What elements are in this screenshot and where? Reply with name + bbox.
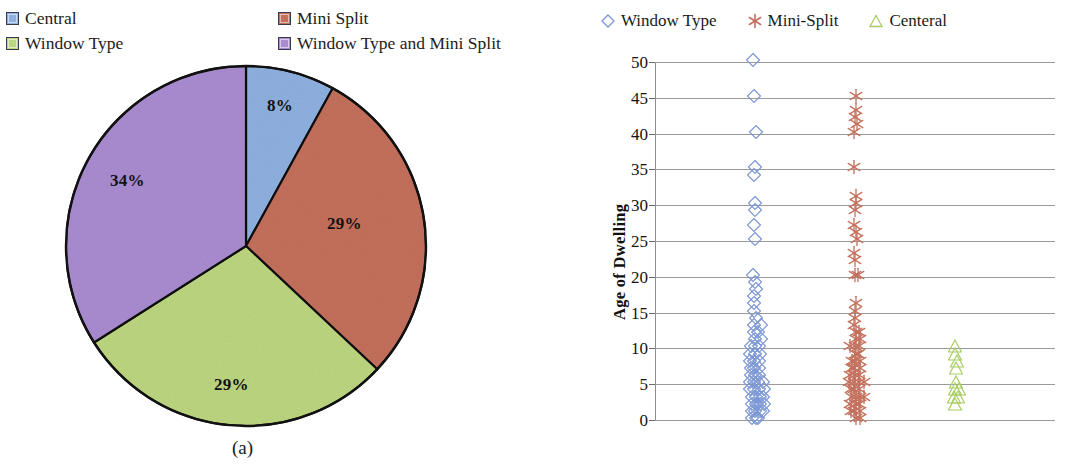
subcaption-a: (a) (232, 437, 253, 459)
gridline (655, 134, 1055, 135)
y-tick-label: 45 (631, 89, 648, 106)
scatter-point (743, 360, 758, 379)
figure-root: Central Mini Split Window Type Window Ty… (0, 0, 1089, 470)
scatter-point (750, 325, 765, 344)
gridline (655, 98, 1055, 99)
scatter-point (853, 360, 868, 379)
scatter-point (852, 353, 867, 372)
scatter-point (847, 110, 862, 129)
y-tick-mark (649, 169, 655, 170)
y-tick-mark (649, 384, 655, 385)
gridline (655, 241, 1055, 242)
scatter-plot-area: 05101520253035404550 (655, 62, 1055, 420)
scatter-point (747, 325, 762, 344)
pie-legend: Central Mini Split Window Type Window Ty… (6, 6, 551, 56)
y-tick-mark (649, 313, 655, 314)
y-tick-mark (649, 277, 655, 278)
gridline (655, 277, 1055, 278)
scatter-point (856, 389, 871, 408)
legend-label: Window Type (25, 35, 123, 53)
pie-label-window-type-and-mini-split: 34% (110, 171, 145, 191)
square-swatch-icon (278, 37, 291, 50)
gridline (655, 169, 1055, 170)
scatter-point (749, 389, 764, 408)
gridline (655, 313, 1055, 314)
y-tick-mark (649, 420, 655, 421)
scatter-point (848, 396, 863, 415)
y-tick-mark (649, 205, 655, 206)
gridline (655, 62, 1055, 63)
legend-item-mini-split: Mini Split (278, 10, 550, 28)
square-swatch-icon (6, 37, 19, 50)
scatter-point (848, 353, 863, 372)
gridline (655, 348, 1055, 349)
scatter-point (951, 389, 966, 408)
scatter-point (749, 396, 764, 415)
scatter-point (755, 389, 770, 408)
scatter-point (843, 396, 858, 415)
scatter-point (844, 389, 859, 408)
scatter-point (752, 396, 767, 415)
square-swatch-icon (6, 12, 19, 25)
scatter-point (847, 317, 862, 336)
scatter-point (751, 353, 766, 372)
square-swatch-icon (278, 12, 291, 25)
scatter-point (753, 389, 768, 408)
y-tick-label: 25 (631, 233, 648, 250)
y-tick-label: 0 (640, 412, 649, 429)
y-tick-label: 10 (631, 340, 648, 357)
panel-a-pie-chart: Central Mini Split Window Type Window Ty… (0, 0, 560, 470)
legend-label: Window Type (621, 11, 717, 31)
y-tick-mark (649, 241, 655, 242)
scatter-point (746, 317, 761, 336)
scatter-point (746, 289, 761, 308)
scatter-point (852, 389, 867, 408)
asterisk-marker-icon (747, 13, 763, 29)
scatter-point (748, 282, 763, 301)
scatter-point (847, 360, 862, 379)
legend-item-window-type-and-mini-split: Window Type and Mini Split (278, 35, 550, 53)
legend-label: Centeral (889, 11, 947, 31)
pie-label-window-type: 29% (214, 375, 249, 395)
scatter-point (744, 396, 759, 415)
pie-chart-graphic: 8% 29% 29% 34% (62, 62, 430, 430)
scatter-point (752, 360, 767, 379)
panel-b-scatter-chart: Window Type Mini-Split (560, 0, 1089, 470)
y-tick-mark (649, 348, 655, 349)
scatter-point (746, 217, 761, 236)
legend-label: Mini Split (297, 10, 368, 28)
y-axis-title: Age of Dwelling (610, 140, 630, 320)
scatter-point (746, 360, 761, 379)
scatter-point (852, 325, 867, 344)
y-tick-label: 35 (631, 161, 648, 178)
scatter-point (947, 389, 962, 408)
scatter-point (744, 389, 759, 408)
legend-item-window-type: Window Type (600, 11, 717, 31)
y-tick-mark (649, 134, 655, 135)
legend-item-central: Central (6, 10, 278, 28)
scatter-point (948, 360, 963, 379)
y-tick-label: 20 (631, 268, 648, 285)
legend-label: Mini-Split (768, 11, 839, 31)
scatter-point (848, 253, 863, 272)
gridline (655, 384, 1055, 385)
scatter-point (846, 217, 861, 236)
triangle-marker-icon (868, 13, 884, 29)
gridline (655, 420, 1055, 421)
legend-item-window-type: Window Type (6, 35, 278, 53)
y-tick-label: 30 (631, 197, 648, 214)
scatter-legend: Window Type Mini-Split (600, 8, 1080, 34)
y-tick-label: 5 (640, 376, 649, 393)
scatter-point (845, 360, 860, 379)
scatter-point (747, 353, 762, 372)
y-tick-mark (649, 62, 655, 63)
legend-label: Central (25, 10, 77, 28)
scatter-point (846, 246, 861, 265)
pie-label-central: 8% (267, 96, 293, 116)
legend-item-centeral: Centeral (868, 11, 947, 31)
scatter-point (743, 353, 758, 372)
scatter-point (753, 317, 768, 336)
scatter-point (849, 389, 864, 408)
legend-item-mini-split: Mini-Split (747, 11, 839, 31)
scatter-point (947, 396, 962, 415)
